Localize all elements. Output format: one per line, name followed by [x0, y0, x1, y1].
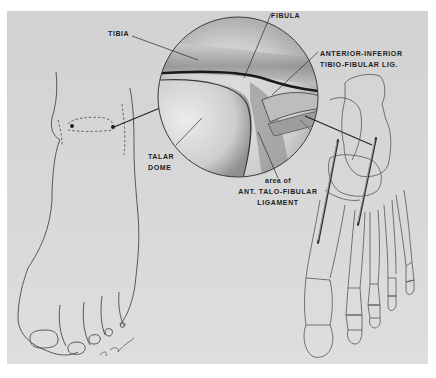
ankle-joint-line — [58, 104, 125, 155]
label-atfl-line3: LIGAMENT — [218, 198, 338, 207]
label-aitfl-line2: TIBIO-FIBULAR LIG. — [320, 60, 398, 69]
label-talar-line2: DOME — [148, 163, 171, 172]
artist-signature — [100, 338, 134, 356]
label-atfl-line1: area of — [218, 176, 338, 185]
arthroscopic-view — [150, 10, 330, 190]
label-atfl-line2: ANT. TALO-FIBULAR — [218, 187, 338, 196]
label-fibula: FIBULA — [271, 11, 300, 20]
label-tibia: TIBIA — [108, 29, 129, 38]
lateral-arthroscope — [358, 138, 376, 225]
medial-portal-marker — [70, 124, 74, 128]
foot-outline — [18, 72, 139, 355]
label-atfl-line1-text: area of — [265, 177, 291, 184]
lens-pointer-left — [114, 108, 160, 127]
label-talar-line1: TALAR — [148, 152, 174, 161]
label-aitfl-line1: ANTERIOR-INFERIOR — [320, 49, 403, 58]
